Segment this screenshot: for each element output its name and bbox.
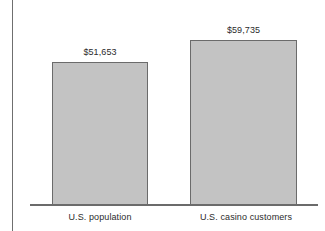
- value-label-us-population: $51,653: [52, 47, 148, 57]
- category-label-us-casino-customers: U.S. casino customers: [176, 212, 316, 222]
- bar-us-casino-customers: [190, 40, 297, 205]
- category-label-us-population: U.S. population: [30, 212, 170, 222]
- bar-chart-figure: $51,653 $59,735 U.S. population U.S. cas…: [0, 0, 325, 231]
- bar-us-population: [52, 62, 148, 205]
- value-label-us-casino-customers: $59,735: [190, 25, 297, 35]
- plot-area: $51,653 $59,735 U.S. population U.S. cas…: [0, 0, 325, 231]
